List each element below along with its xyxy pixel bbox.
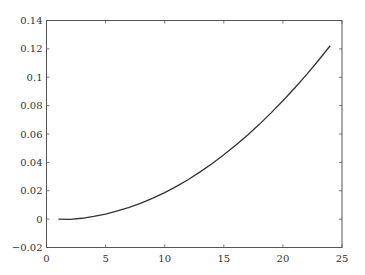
- x-tick-label: 0: [43, 253, 49, 264]
- y-tick-label: 0: [36, 214, 42, 225]
- y-axis: −0.0200.020.040.060.080.10.120.14: [12, 15, 342, 253]
- y-tick-label: 0.08: [20, 100, 42, 111]
- y-tick-label: −0.02: [12, 242, 43, 253]
- y-tick-label: 0.06: [20, 129, 42, 140]
- y-tick-label: 0.12: [20, 43, 42, 54]
- plot-frame: [47, 21, 343, 248]
- axes-box: [47, 21, 343, 248]
- x-tick-label: 5: [102, 253, 108, 264]
- line-chart: 0510152025 −0.0200.020.040.060.080.10.12…: [0, 0, 365, 275]
- y-tick-label: 0.14: [20, 15, 42, 26]
- x-tick-label: 25: [336, 253, 349, 264]
- y-tick-label: 0.04: [20, 157, 42, 168]
- y-tick-label: 0.1: [27, 72, 43, 83]
- x-tick-label: 20: [277, 253, 290, 264]
- data-line: [58, 46, 330, 220]
- x-tick-label: 10: [158, 253, 171, 264]
- x-tick-label: 15: [217, 253, 230, 264]
- y-tick-label: 0.02: [20, 185, 42, 196]
- x-axis: 0510152025: [43, 21, 348, 264]
